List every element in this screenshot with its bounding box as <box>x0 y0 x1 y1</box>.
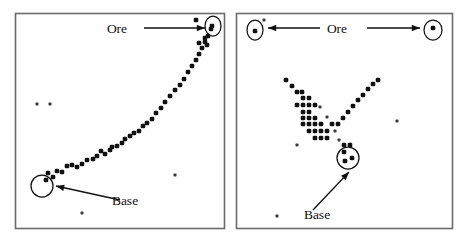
agent-dot <box>65 164 70 169</box>
agent-dot <box>350 156 355 161</box>
agent-dot <box>128 134 133 139</box>
agent-dot <box>351 104 356 109</box>
stray-mark <box>81 212 84 215</box>
agent-dot <box>173 88 178 93</box>
agent-dot <box>103 152 108 157</box>
agent-dot <box>194 18 199 23</box>
agent-dot <box>307 96 312 101</box>
agent-dot <box>123 137 128 142</box>
agent-dot <box>141 124 146 129</box>
agent-dot <box>115 144 120 149</box>
agent-dot <box>137 129 142 134</box>
agent-dot <box>197 41 202 46</box>
agent-dot <box>325 136 330 141</box>
agent-dot <box>95 154 100 159</box>
agent-dot <box>203 36 208 41</box>
stray-mark <box>319 106 322 109</box>
agent-dot <box>319 122 324 127</box>
agent-dot <box>313 129 318 134</box>
base-label: Base <box>304 207 330 222</box>
agent-dot <box>301 122 306 127</box>
stray-mark <box>396 120 399 123</box>
agent-dot <box>313 136 318 141</box>
agent-dot <box>120 141 125 146</box>
stray-mark <box>276 215 279 218</box>
agent-dot <box>301 96 306 101</box>
agent-dot <box>356 98 361 103</box>
stray-mark <box>263 19 266 22</box>
agent-dot <box>186 70 191 75</box>
two-panel-figure: OreBaseOreBase <box>0 0 465 242</box>
agent-dot <box>361 93 366 98</box>
ore-label: Ore <box>107 21 127 36</box>
right-panel-frame <box>237 14 453 229</box>
agent-dot <box>300 90 305 95</box>
agent-dot <box>205 43 210 48</box>
agent-dot <box>342 150 347 155</box>
agent-dot <box>301 110 306 115</box>
agent-dot <box>194 58 199 63</box>
agent-dot <box>91 157 96 162</box>
agent-dot <box>307 110 312 115</box>
agent-dot <box>330 122 335 127</box>
agent-dot <box>376 78 381 83</box>
agent-dot <box>55 169 60 174</box>
agent-dot <box>75 165 80 170</box>
agent-dot <box>253 29 258 34</box>
agent-dot <box>295 90 300 95</box>
agent-dot <box>99 149 104 154</box>
agent-dot <box>210 24 215 29</box>
stray-mark <box>174 174 177 177</box>
agent-dot <box>132 131 137 136</box>
agent-dot <box>343 159 348 164</box>
agent-dot <box>200 46 205 51</box>
agent-dot <box>366 87 371 92</box>
agent-dot <box>163 100 168 105</box>
agent-dot <box>284 78 289 83</box>
agent-dot <box>168 94 173 99</box>
agent-dot <box>290 84 295 89</box>
stray-mark <box>334 130 337 133</box>
agent-dot <box>51 175 56 180</box>
agent-dot <box>190 64 195 69</box>
agent-dot <box>60 170 65 175</box>
base-label: Base <box>112 193 138 208</box>
agent-dot <box>341 116 346 121</box>
agent-dot <box>307 103 312 108</box>
stray-mark <box>338 139 341 142</box>
agent-dot <box>197 52 202 57</box>
agent-dot <box>307 122 312 127</box>
agent-dot <box>110 145 115 150</box>
agent-dot <box>313 122 318 127</box>
figure-container: OreBaseOreBase <box>0 0 465 242</box>
agent-dot <box>346 110 351 115</box>
agent-dot <box>145 121 150 126</box>
agent-dot <box>85 158 90 163</box>
ore-label: Ore <box>327 21 347 36</box>
right-panel: OreBase <box>237 14 453 229</box>
stray-mark <box>36 103 39 106</box>
agent-dot <box>319 136 324 141</box>
agent-dot <box>70 163 75 168</box>
agent-dot <box>44 178 49 183</box>
agent-dot <box>46 171 51 176</box>
agent-dot <box>154 111 159 116</box>
agent-dot <box>371 82 376 87</box>
agent-dot <box>313 116 318 121</box>
agent-dot <box>301 116 306 121</box>
agent-dot <box>319 129 324 134</box>
agent-dot <box>159 106 164 111</box>
agent-dot <box>150 117 155 122</box>
agent-dot <box>178 83 183 88</box>
agent-dot <box>307 116 312 121</box>
stray-mark <box>326 116 329 119</box>
stray-mark <box>49 103 52 106</box>
agent-dot <box>431 26 436 31</box>
left-panel: OreBase <box>16 14 225 229</box>
agent-dot <box>295 103 300 108</box>
agent-dot <box>342 143 347 148</box>
agent-dot <box>336 122 341 127</box>
agent-dot <box>307 129 312 134</box>
agent-dot <box>182 77 187 82</box>
agent-dot <box>325 129 330 134</box>
